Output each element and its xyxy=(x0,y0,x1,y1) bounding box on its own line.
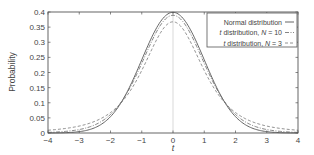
y-tick-label: 0.1 xyxy=(34,99,46,108)
x-tick-label: 4 xyxy=(296,136,301,145)
y-axis-label: Probability xyxy=(7,51,17,91)
y-tick-label: 0.25 xyxy=(29,53,45,62)
y-tick-label: 0.3 xyxy=(34,38,46,47)
x-tick-label: −2 xyxy=(106,136,116,145)
t-distribution-chart: 00.050.10.150.20.250.30.350.4 −4−3−2−101… xyxy=(0,0,314,155)
legend: Normal distributiont distribution, N = 1… xyxy=(207,13,297,47)
x-tick-label: 1 xyxy=(202,136,207,145)
legend-item-t-n10: t distribution, N = 10 xyxy=(220,29,283,36)
x-tick-label: −3 xyxy=(75,136,85,145)
x-tick-label: 2 xyxy=(233,136,238,145)
y-tick-label: 0.05 xyxy=(29,114,45,123)
x-tick-label: −4 xyxy=(43,136,53,145)
x-tick-label: −1 xyxy=(137,136,147,145)
y-tick-label: 0.4 xyxy=(34,8,46,17)
legend-item-t-n3: t distribution, N = 3 xyxy=(223,40,282,47)
y-tick-label: 0.2 xyxy=(34,69,46,78)
legend-item-normal: Normal distribution xyxy=(224,19,282,26)
y-tick-label: 0.15 xyxy=(29,84,45,93)
y-tick-label: 0.35 xyxy=(29,23,45,32)
x-tick-label: 3 xyxy=(265,136,270,145)
